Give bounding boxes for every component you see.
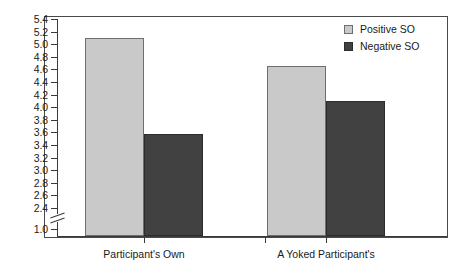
y-axis-tick-label-wrap: 2.6: [18, 190, 48, 201]
y-axis-tick-label-wrap: 4.4: [18, 77, 48, 88]
y-axis-tick-label-wrap: 5.4: [18, 14, 48, 25]
y-axis-tick-label-wrap: 3.0: [18, 165, 48, 176]
y-axis-tick-label-wrap: 2.4: [18, 203, 48, 214]
y-axis-tick: [51, 44, 57, 45]
y-axis-tick-label: 4.6: [22, 64, 48, 75]
y-axis-tick: [51, 170, 57, 171]
y-axis-tick-label: 2.8: [22, 178, 48, 189]
x-axis-tick: [265, 237, 266, 243]
y-axis-tick: [51, 69, 57, 70]
y-axis-tick: [51, 19, 57, 20]
y-axis-tick: [51, 229, 57, 230]
y-axis-tick-label: 3.4: [22, 140, 48, 151]
y-axis-tick-label-wrap: 5.0: [18, 39, 48, 50]
legend-label-negative: Negative SO: [360, 41, 420, 52]
legend-swatch-icon-positive: [344, 25, 353, 34]
y-axis-line: [57, 19, 58, 236]
y-axis-tick-label: 2.4: [22, 203, 48, 214]
y-axis-tick-label: 4.8: [22, 52, 48, 63]
legend: Positive SO Negative SO: [344, 22, 440, 56]
y-axis-tick: [51, 208, 57, 209]
y-axis-tick-label: 4.2: [22, 90, 48, 101]
y-axis-tick: [51, 132, 57, 133]
x-axis-tick: [144, 237, 145, 243]
bar-positive-so: [85, 38, 144, 236]
y-axis-tick: [51, 95, 57, 96]
y-axis-tick-label: 5.4: [22, 14, 48, 25]
legend-item-positive[interactable]: Positive SO: [344, 22, 440, 37]
y-axis-tick-label-wrap: 3.2: [18, 153, 48, 164]
legend-item-negative[interactable]: Negative SO: [344, 39, 440, 54]
y-axis-tick-label-wrap: 4.6: [18, 64, 48, 75]
y-axis-tick-label-wrap: 5.2: [18, 27, 48, 38]
y-axis-tick: [51, 195, 57, 196]
axis-break-icon: [50, 211, 66, 225]
y-axis-tick-label-wrap: 4.2: [18, 90, 48, 101]
y-axis-tick-label: 3.6: [22, 127, 48, 138]
y-axis-tick-label-wrap: 1.0: [18, 224, 48, 235]
y-axis-tick-label: 3.0: [22, 165, 48, 176]
bar-negative-so: [326, 101, 385, 236]
y-axis-tick-label-wrap: 2.8: [18, 178, 48, 189]
legend-label-positive: Positive SO: [360, 24, 415, 35]
y-axis-tick-label-wrap: 3.8: [18, 115, 48, 126]
y-axis-tick-label: 1.0: [22, 224, 48, 235]
x-axis-line: [57, 236, 447, 237]
bar-positive-so: [267, 66, 326, 236]
y-axis-tick-label: 5.0: [22, 39, 48, 50]
y-axis-tick: [51, 82, 57, 83]
y-axis-tick-label-wrap: 3.6: [18, 127, 48, 138]
y-axis-tick-label: 5.2: [22, 27, 48, 38]
x-axis-category-label: A Yoked Participant's: [246, 248, 406, 260]
y-axis-tick-label-wrap: 4.0: [18, 102, 48, 113]
y-axis-tick: [51, 57, 57, 58]
y-axis-tick-label: 3.2: [22, 153, 48, 164]
x-axis-tick: [326, 237, 327, 243]
y-axis-tick: [51, 32, 57, 33]
y-axis-tick-label-wrap: 4.8: [18, 52, 48, 63]
x-axis-category-label: Participant's Own: [64, 248, 224, 260]
y-axis-tick: [51, 107, 57, 108]
y-axis-tick-label: 3.8: [22, 115, 48, 126]
bar-chart: 5.45.25.04.84.64.44.24.03.83.63.43.23.02…: [0, 0, 455, 275]
y-axis-tick: [51, 183, 57, 184]
y-axis-tick: [51, 145, 57, 146]
y-axis-tick-label: 4.4: [22, 77, 48, 88]
y-axis-tick: [51, 120, 57, 121]
y-axis-tick-label: 4.0: [22, 102, 48, 113]
legend-swatch-icon-negative: [344, 42, 353, 51]
y-axis-tick-label: 2.6: [22, 190, 48, 201]
y-axis-tick: [51, 158, 57, 159]
y-axis-tick-label-wrap: 3.4: [18, 140, 48, 151]
bar-negative-so: [144, 134, 203, 236]
